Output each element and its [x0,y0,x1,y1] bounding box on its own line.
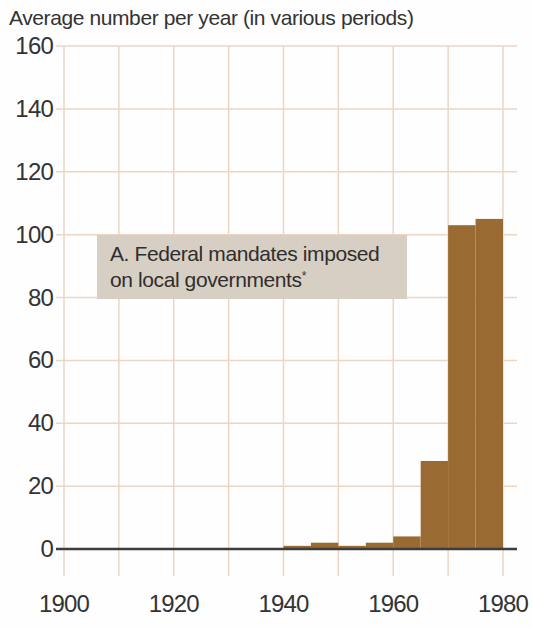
y-tick-label: 80 [28,284,54,311]
y-tick-label: 120 [15,158,53,185]
bar-1975-1980 [476,219,503,549]
annotation-line-1: A. Federal mandates imposed [110,242,379,265]
bar-chart-plot: 0204060801001201401601900192019401960198… [0,0,533,628]
x-tick-label: 1900 [39,590,90,617]
x-tick-label: 1960 [368,590,419,617]
annotation-line-2: on local governments [110,268,302,291]
bar-1970-1975 [448,225,475,549]
y-tick-label: 60 [28,346,54,373]
y-tick-label: 100 [15,221,53,248]
y-tick-label: 0 [40,535,53,562]
annotation-box: A. Federal mandates imposed on local gov… [97,235,407,299]
bar-1960-1965 [393,536,420,549]
y-tick-label: 140 [15,95,53,122]
x-tick-label: 1940 [258,590,309,617]
footnote-marker: * [302,269,306,283]
y-tick-label: 20 [28,472,54,499]
chart-figure: Average number per year (in various peri… [0,0,533,628]
y-tick-label: 40 [28,409,54,436]
x-tick-label: 1980 [478,590,529,617]
x-tick-label: 1920 [149,590,200,617]
bar-1965-1970 [421,461,448,549]
y-tick-label: 160 [15,32,53,59]
